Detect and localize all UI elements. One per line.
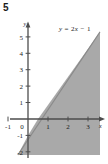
y-tick-label-minus-2: -2 [17, 149, 23, 157]
x-axis-label: x [98, 123, 102, 129]
origin-label: 0 [20, 123, 24, 131]
equation-equals: = [65, 25, 69, 33]
x-tick-label-minus-1: -1 [5, 123, 11, 131]
graph-svg: 5 4 3 2 1 -1 -2 -1 0 1 2 3 y x y=2x−1 [0, 18, 108, 164]
y-tick-label-2: 2 [20, 83, 24, 91]
y-tick-label-4: 4 [20, 50, 24, 58]
x-axis-arrow-icon [99, 117, 105, 122]
y-tick-label-5: 5 [20, 34, 24, 42]
x-tick-label-1: 1 [46, 123, 50, 131]
question-number: 5 [3, 2, 9, 14]
y-axis-label: y [23, 21, 27, 27]
x-tick-label-3: 3 [86, 123, 90, 131]
equation-minus: − [80, 25, 84, 33]
equation-intercept: 1 [87, 25, 91, 33]
y-tick-label-minus-1: -1 [17, 132, 23, 140]
y-axis-arrow-icon [26, 22, 31, 28]
y-tick-label-1: 1 [20, 99, 24, 107]
coordinate-plane-plot: 5 4 3 2 1 -1 -2 -1 0 1 2 3 y x y=2x−1 [0, 18, 108, 164]
exercise-figure: 5 [0, 0, 108, 164]
x-tick-label-2: 2 [66, 123, 70, 131]
y-tick-label-3: 3 [20, 66, 24, 74]
